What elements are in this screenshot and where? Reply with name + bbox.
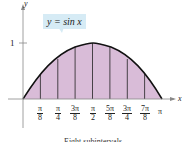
x-tick-pi: π: [158, 108, 162, 116]
y-axis-label: y: [24, 0, 28, 8]
x-axis-label: x: [178, 95, 182, 103]
x-tick-pi-4: π4: [50, 105, 66, 122]
figure-caption: Eight subintervals: [0, 137, 186, 142]
x-tick-pi-2: π2: [85, 105, 101, 122]
x-tick-7pi-8: 7π8: [137, 105, 153, 122]
x-axis-arrow: [170, 97, 176, 101]
x-tick-3pi-4: 3π4: [119, 105, 135, 122]
function-label: y = sin x: [43, 14, 86, 29]
x-tick-3pi-8: 3π8: [67, 105, 83, 122]
y-tick-label-1: 1: [10, 39, 15, 47]
x-tick-5pi-8: 5π8: [102, 105, 118, 122]
x-tick-pi-8: π8: [32, 105, 48, 122]
